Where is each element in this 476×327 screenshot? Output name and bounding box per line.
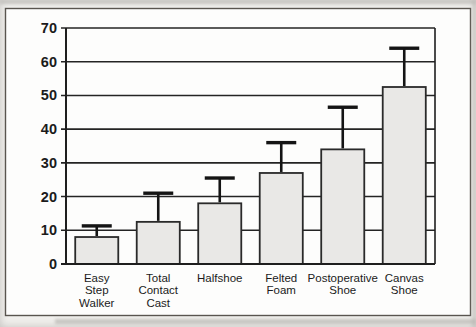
scanned-figure-page: 010203040506070EasyStepWalkerTotalContac… [0,0,476,327]
bar-canvas-shoe [383,87,426,264]
bar-felted-foam [260,173,303,264]
y-tick-label-20: 20 [41,189,57,205]
y-tick-label-10: 10 [41,222,57,238]
bar-chart-figure: 010203040506070EasyStepWalkerTotalContac… [0,0,476,327]
y-tick-label-40: 40 [41,121,57,137]
y-tick-label-70: 70 [41,20,57,36]
y-tick-label-60: 60 [41,54,57,70]
x-category-label-felted-foam: FeltedFoam [265,272,297,296]
bar-halfshoe [198,203,241,264]
y-tick-label-0: 0 [49,256,57,272]
bar-postoperative-shoe [321,149,364,264]
bar-easy-step-walker [75,237,118,264]
bar-total-contact-cast [137,222,180,264]
x-category-label-halfshoe: Halfshoe [197,272,242,284]
y-tick-label-30: 30 [41,155,57,171]
y-tick-label-50: 50 [41,87,57,103]
